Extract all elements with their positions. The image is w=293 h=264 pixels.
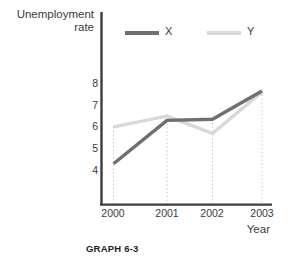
series-line-x	[114, 91, 263, 164]
series-group	[114, 91, 263, 164]
plot-area	[0, 0, 293, 264]
graph-figure: Unemployment rate X Y 8 7 6 5 4 2000 200…	[0, 0, 293, 264]
series-line-y	[114, 92, 263, 133]
